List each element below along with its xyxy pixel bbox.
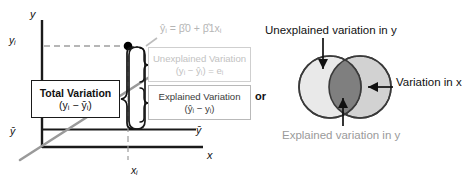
unexplained-variation-box: Unexplained Variation (yᵢ − ŷᵢ) = eᵢ [148,47,251,82]
total-variation-formula: (yᵢ − ȳᵢ) [59,99,92,111]
regression-equation-label: ŷᵢ = β̂0 + β̂1xᵢ [160,22,222,34]
explained-variation-formula: (ŷᵢ − yᵢ) [185,103,215,114]
explained-variation-box: Explained Variation (ŷᵢ − yᵢ) [148,85,251,120]
or-connector-label: or [255,90,266,102]
x-observed-tick-label: xᵢ [131,164,138,176]
equation-leader-line [146,38,157,46]
y-observed-tick-label: yᵢ [9,34,16,46]
unexplained-variation-brace [140,48,148,82]
unexplained-variation-title: Unexplained Variation [153,53,246,64]
y-mean-tick-label-left: ȳ [10,125,15,137]
y-mean-tick-label-right: ȳ [196,124,201,136]
explained-variation-title: Explained Variation [159,91,241,102]
venn-label-unexplained-variation-in-y: Unexplained variation in y [265,24,397,36]
x-axis-label: x [207,149,213,161]
y-axis-label: y [30,8,36,20]
venn-label-explained-variation-in-y: Explained variation in y [282,129,400,141]
diagram-canvas: y x yᵢ ȳ ȳ xᵢ ŷᵢ = β̂0 + β̂1xᵢ Total Var… [0,0,475,187]
total-variation-box: Total Variation (yᵢ − ȳᵢ) [31,80,120,118]
venn-label-variation-in-x: Variation in x [396,76,462,88]
unexplained-variation-formula: (yᵢ − ŷᵢ) = eᵢ [176,65,224,76]
total-variation-title: Total Variation [40,87,112,99]
explained-variation-brace [140,88,148,122]
